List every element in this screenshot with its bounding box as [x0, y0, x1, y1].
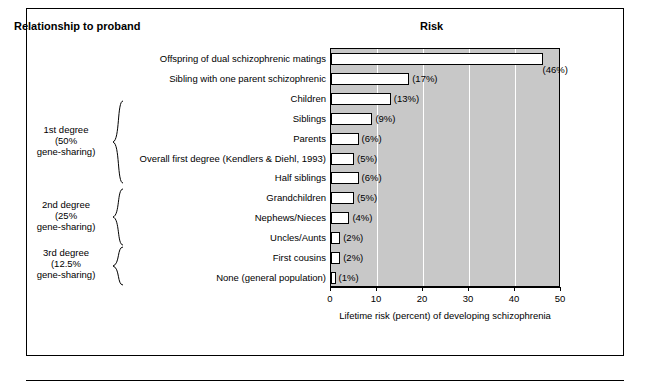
bar — [331, 73, 409, 85]
bar-value-label: (5%) — [357, 192, 377, 203]
category-label: Grandchildren — [266, 192, 326, 203]
group-label-3rd-degree-line3: gene-sharing) — [22, 269, 110, 280]
category-label: Half siblings — [275, 172, 326, 183]
x-axis-tick-label: 50 — [548, 293, 572, 304]
category-label: Overall first degree (Kendlers & Diehl, … — [140, 153, 326, 164]
x-axis-tick-label: 10 — [364, 293, 388, 304]
bar — [331, 53, 543, 65]
group-brace-3rd-degree — [112, 246, 124, 286]
bar-value-label: (17%) — [412, 73, 437, 84]
x-axis-tick — [376, 287, 377, 291]
bar-value-label: (1%) — [339, 272, 359, 283]
bar-value-label: (5%) — [357, 153, 377, 164]
bar-value-label: (2%) — [343, 232, 363, 243]
x-axis-line — [330, 287, 560, 288]
group-label-2nd-degree-line1: 2nd degree — [22, 199, 110, 210]
group-brace-2nd-degree — [112, 188, 124, 246]
bar — [331, 192, 354, 204]
bar — [331, 113, 372, 125]
bar — [331, 212, 349, 224]
bar — [331, 93, 391, 105]
bar — [331, 153, 354, 165]
column-heading-relationship: Relationship to proband — [14, 20, 141, 32]
group-label-3rd-degree: 3rd degree (12.5% gene-sharing) — [22, 247, 110, 280]
group-label-1st-degree: 1st degree (50% gene-sharing) — [22, 124, 110, 157]
group-label-3rd-degree-line2: (12.5% — [22, 258, 110, 269]
bar-value-label: (6%) — [362, 172, 382, 183]
category-label: Siblings — [293, 113, 326, 124]
x-axis-title: Lifetime risk (percent) of developing sc… — [330, 310, 560, 321]
plot-area — [330, 48, 560, 287]
bar-value-label: (13%) — [394, 93, 419, 104]
group-label-3rd-degree-line1: 3rd degree — [22, 247, 110, 258]
gridline — [515, 49, 516, 286]
group-label-2nd-degree-line2: (25% — [22, 210, 110, 221]
category-label: Parents — [293, 133, 326, 144]
bar — [331, 172, 359, 184]
bar — [331, 232, 340, 244]
x-axis-tick-label: 0 — [318, 293, 342, 304]
category-label: Nephews/Nieces — [255, 212, 326, 223]
bar-value-label: (4%) — [352, 212, 372, 223]
x-axis-tick — [330, 287, 331, 291]
x-axis-tick-label: 20 — [410, 293, 434, 304]
gridline — [423, 49, 424, 286]
x-axis-tick-label: 30 — [456, 293, 480, 304]
category-label: Uncles/Aunts — [270, 232, 326, 243]
group-label-1st-degree-line3: gene-sharing) — [22, 146, 110, 157]
gridline — [469, 49, 470, 286]
bar-value-label: (2%) — [343, 252, 363, 263]
category-label: None (general population) — [216, 272, 326, 283]
group-label-2nd-degree: 2nd degree (25% gene-sharing) — [22, 199, 110, 232]
category-label: Sibling with one parent schizophrenic — [169, 73, 326, 84]
x-axis-tick — [560, 287, 561, 291]
bottom-divider — [26, 380, 624, 381]
group-brace-1st-degree — [112, 100, 124, 184]
bar — [331, 252, 340, 264]
bar-value-label: (46%) — [543, 64, 568, 75]
x-axis-tick — [514, 287, 515, 291]
group-label-1st-degree-line2: (50% — [22, 135, 110, 146]
x-axis-tick-label: 40 — [502, 293, 526, 304]
column-heading-risk: Risk — [420, 20, 443, 32]
group-label-2nd-degree-line3: gene-sharing) — [22, 221, 110, 232]
bar — [331, 272, 336, 284]
bar — [331, 133, 359, 145]
category-label: Children — [291, 93, 326, 104]
bar-value-label: (6%) — [362, 133, 382, 144]
bar-value-label: (9%) — [375, 113, 395, 124]
x-axis-tick — [468, 287, 469, 291]
category-label: Offspring of dual schizophrenic matings — [160, 53, 326, 64]
category-label: First cousins — [273, 252, 326, 263]
x-axis-tick — [422, 287, 423, 291]
group-label-1st-degree-line1: 1st degree — [22, 124, 110, 135]
